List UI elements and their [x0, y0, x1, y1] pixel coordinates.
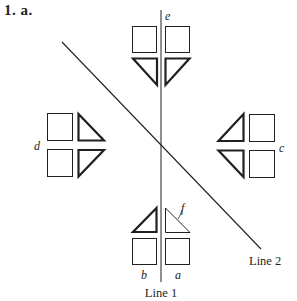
triangle-f [166, 208, 191, 233]
square [48, 150, 73, 177]
square [250, 115, 275, 142]
figure-c [219, 114, 275, 178]
triangle [219, 151, 244, 178]
figure-b [133, 208, 157, 265]
line-2-label: Line 2 [249, 254, 281, 268]
square [250, 151, 275, 178]
figure-d [48, 114, 105, 177]
triangle [133, 59, 157, 86]
label-b: b [141, 268, 147, 282]
square [166, 239, 190, 265]
square [133, 239, 157, 265]
label-a: a [175, 268, 181, 282]
label-f: f [181, 201, 186, 215]
triangle [219, 114, 244, 141]
triangle [133, 208, 157, 232]
triangle [79, 150, 105, 177]
square [48, 114, 73, 141]
label-c: c [279, 141, 285, 155]
triangle [166, 59, 190, 86]
reflection-diagram: e d c f b a Line 1 Line 2 [0, 0, 297, 301]
triangle [79, 114, 105, 141]
square [133, 27, 157, 53]
line-1-label: Line 1 [145, 286, 177, 300]
label-e: e [165, 9, 171, 23]
square [166, 27, 190, 53]
figure-a [166, 208, 191, 265]
label-d: d [34, 139, 41, 153]
